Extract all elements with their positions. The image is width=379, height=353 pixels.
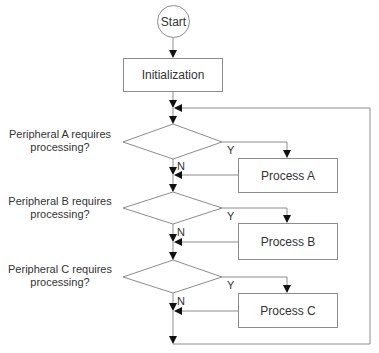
decision-c-line2: processing?	[0, 276, 120, 289]
decision-a-line2: processing?	[0, 141, 120, 154]
process-c-label: Process C	[260, 304, 315, 318]
decision-c-line1: Peripheral C requires	[0, 263, 120, 276]
decision-b-label: Peripheral B requires processing?	[0, 195, 120, 221]
initialization-box: Initialization	[123, 58, 223, 92]
decision-a-shape	[123, 124, 222, 159]
start-node: Start	[157, 5, 190, 38]
decision-b-shape	[123, 192, 222, 224]
decision-a-label: Peripheral A requires processing?	[0, 128, 120, 154]
decision-b-yes-label: Y	[227, 210, 234, 223]
decision-a-no-label: N	[177, 160, 185, 173]
decision-b-line1: Peripheral B requires	[0, 195, 120, 208]
process-b-box: Process B	[238, 223, 338, 260]
process-a-label: Process A	[261, 169, 315, 183]
decision-c-yes-label: Y	[227, 279, 234, 292]
decision-b-no-label: N	[177, 226, 185, 239]
process-b-label: Process B	[261, 235, 316, 249]
initialization-label: Initialization	[142, 68, 205, 82]
process-c-box: Process C	[238, 293, 338, 328]
start-label: Start	[161, 15, 186, 29]
process-a-box: Process A	[238, 158, 338, 193]
decision-b-line2: processing?	[0, 208, 120, 221]
decision-a-line1: Peripheral A requires	[0, 128, 120, 141]
decision-a-yes-label: Y	[227, 144, 234, 157]
decision-c-no-label: N	[177, 295, 185, 308]
decision-c-label: Peripheral C requires processing?	[0, 263, 120, 289]
decision-c-shape	[123, 260, 222, 293]
